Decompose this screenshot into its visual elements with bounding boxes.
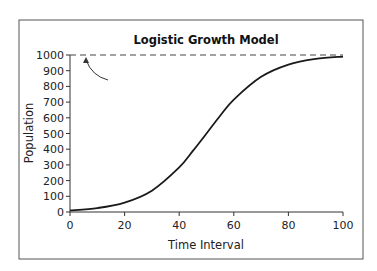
y-tick-label: 400 xyxy=(43,143,64,156)
y-tick-label: 900 xyxy=(43,65,64,78)
x-tick-label: 20 xyxy=(118,219,132,232)
x-axis-title: Time Interval xyxy=(167,238,244,252)
y-tick-label: 100 xyxy=(43,190,64,203)
x-tick-label: 60 xyxy=(227,219,241,232)
y-tick-label: 0 xyxy=(57,206,64,219)
logistic-growth-chart: Logistic Growth Model 010020030040050060… xyxy=(0,0,377,271)
y-tick-label: 1000 xyxy=(36,49,64,62)
x-tick-label: 40 xyxy=(172,219,186,232)
y-tick-label: 700 xyxy=(43,96,64,109)
chart-title: Logistic Growth Model xyxy=(133,33,278,47)
y-tick-label: 800 xyxy=(43,80,64,93)
y-axis-title: Population xyxy=(22,103,36,163)
y-tick-label: 300 xyxy=(43,159,64,172)
y-tick-label: 500 xyxy=(43,128,64,141)
x-tick-label: 80 xyxy=(281,219,295,232)
y-tick-label: 600 xyxy=(43,112,64,125)
x-tick-label: 0 xyxy=(67,219,74,232)
x-tick-label: 100 xyxy=(333,219,354,232)
y-tick-label: 200 xyxy=(43,175,64,188)
